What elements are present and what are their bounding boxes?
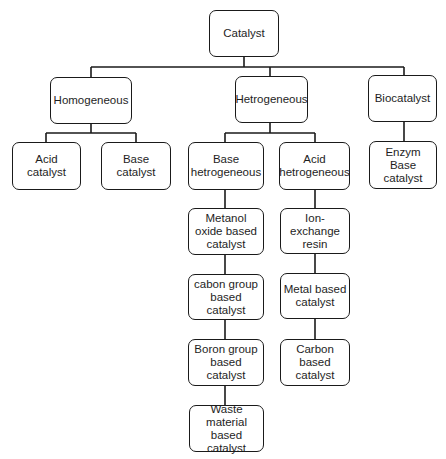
node-acid-hetrogeneous: Acid hetrogeneous bbox=[279, 142, 350, 190]
node-base-hetrogeneous: Base hetrogeneous bbox=[188, 142, 264, 190]
node-acid-catalyst: Acid catalyst bbox=[12, 142, 81, 190]
node-carbon-based-catalyst: Carbon based catalyst bbox=[280, 339, 350, 386]
node-enzym-base-catalyst: Enzym Base catalyst bbox=[369, 141, 437, 189]
node-homogeneous: Homogeneous bbox=[50, 77, 132, 124]
node-hetrogeneous: Hetrogeneous bbox=[235, 76, 308, 123]
node-cabon-group-catalyst: cabon group based catalyst bbox=[188, 274, 264, 320]
node-base-catalyst: Base catalyst bbox=[101, 142, 171, 190]
node-catalyst: Catalyst bbox=[209, 10, 279, 57]
node-boron-group-catalyst: Boron group based catalyst bbox=[188, 339, 264, 386]
node-biocatalyst: Biocatalyst bbox=[368, 75, 437, 122]
node-metal-based-catalyst: Metal based catalyst bbox=[280, 273, 350, 319]
node-ion-exchange-resin: Ion-exchange resin bbox=[280, 208, 350, 254]
node-waste-material-catalyst: Waste material based catalyst bbox=[189, 405, 264, 452]
catalyst-classification-diagram: Catalyst Homogeneous Hetrogeneous Biocat… bbox=[0, 0, 446, 459]
node-metanol-oxide-catalyst: Metanol oxide based catalyst bbox=[188, 208, 264, 255]
